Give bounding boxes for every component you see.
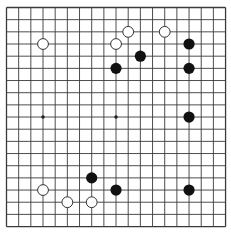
black-stone[interactable] (183, 184, 194, 195)
white-stone[interactable] (62, 197, 73, 208)
black-stone[interactable] (110, 184, 121, 195)
black-stone[interactable] (135, 51, 146, 62)
black-stone[interactable] (183, 111, 194, 122)
white-stone[interactable] (86, 197, 97, 208)
white-stone[interactable] (38, 185, 49, 196)
star-point (41, 115, 45, 119)
white-stone[interactable] (38, 39, 49, 50)
white-stone[interactable] (111, 39, 122, 50)
white-stone[interactable] (159, 26, 170, 37)
black-stone[interactable] (86, 172, 97, 183)
black-stone[interactable] (183, 63, 194, 74)
white-stone[interactable] (123, 26, 134, 37)
go-board (0, 0, 231, 232)
black-stone[interactable] (183, 38, 194, 49)
star-point (114, 115, 118, 119)
black-stone[interactable] (110, 63, 121, 74)
